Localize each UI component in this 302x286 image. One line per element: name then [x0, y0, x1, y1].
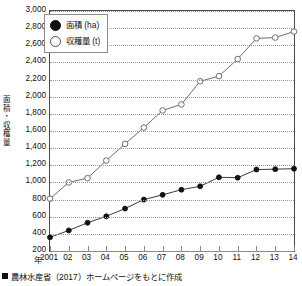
y-tick-label: 1,200 — [0, 160, 46, 168]
gridline — [50, 97, 294, 98]
x-tick-mark — [50, 246, 51, 251]
source-caption: 農林水産省（2017）ホームページをもとに作成 — [2, 272, 302, 283]
y-tick-label: 2,200 — [0, 75, 46, 83]
series-line — [50, 32, 294, 199]
x-tick-mark — [163, 246, 164, 251]
legend-label-yield: 収穫量 (t) — [66, 37, 100, 46]
open-circle-icon — [50, 36, 61, 47]
gridline — [50, 165, 294, 166]
data-point — [235, 56, 241, 62]
data-point — [141, 125, 147, 131]
bullet-square-icon — [2, 273, 8, 279]
data-point — [216, 73, 222, 79]
data-point — [160, 108, 166, 114]
filled-circle-icon — [50, 20, 61, 31]
data-point — [122, 141, 128, 147]
data-point — [254, 36, 260, 42]
data-point — [235, 175, 240, 180]
y-tick-label: 3,000 — [0, 6, 46, 14]
x-tick-mark — [200, 246, 201, 251]
y-tick-label: 1,400 — [0, 143, 46, 151]
y-tick-label: 800 — [0, 195, 46, 203]
data-point — [66, 228, 71, 233]
x-tick-mark — [69, 246, 70, 251]
data-point — [273, 167, 278, 172]
data-point — [216, 175, 221, 180]
y-tick-label: 400 — [0, 229, 46, 237]
data-point — [104, 158, 110, 164]
data-point — [160, 192, 165, 197]
y-tick-label: 1,800 — [0, 109, 46, 117]
data-point — [254, 167, 259, 172]
gridline — [50, 131, 294, 132]
gridline — [50, 200, 294, 201]
y-axis-tick-labels: 2004006008001,0001,2001,4001,6001,8002,0… — [0, 0, 46, 286]
data-point — [198, 184, 203, 189]
data-point — [48, 235, 53, 240]
x-tick-mark — [294, 246, 295, 251]
x-tick-mark — [125, 246, 126, 251]
y-tick-label: 2,400 — [0, 57, 46, 65]
x-axis-tick-labels: 200102030405060708091011121314 — [0, 253, 302, 266]
caption-text: 農林水産省（2017）ホームページをもとに作成 — [11, 272, 182, 282]
chart-legend: 面積 (ha) 収穫量 (t) — [44, 14, 108, 53]
gridline — [50, 11, 294, 12]
data-point — [272, 35, 278, 41]
gridline — [50, 80, 294, 81]
x-tick-mark — [106, 246, 107, 251]
x-tick-mark — [275, 246, 276, 251]
data-point — [179, 102, 185, 108]
data-point — [123, 206, 128, 211]
gridline — [50, 114, 294, 115]
x-tick-mark — [144, 246, 145, 251]
y-tick-label: 2,600 — [0, 40, 46, 48]
y-tick-label: 600 — [0, 212, 46, 220]
legend-item-area: 面積 (ha) — [50, 19, 100, 32]
x-tick-mark — [219, 246, 220, 251]
legend-label-area: 面積 (ha) — [66, 21, 99, 30]
gridline — [50, 62, 294, 63]
x-tick-mark — [256, 246, 257, 251]
gridline — [50, 234, 294, 235]
y-tick-label: 1,000 — [0, 177, 46, 185]
data-point — [291, 29, 297, 35]
y-tick-label: 1,600 — [0, 126, 46, 134]
data-point — [85, 175, 91, 181]
chart-figure: 面積・収穫量 2004006008001,0001,2001,4001,6001… — [0, 0, 302, 286]
data-point — [179, 187, 184, 192]
legend-item-yield: 収穫量 (t) — [50, 35, 100, 48]
gridline — [50, 217, 294, 218]
x-tick-mark — [181, 246, 182, 251]
data-point — [85, 220, 90, 225]
axis-baseline — [50, 251, 294, 252]
data-point — [292, 166, 297, 171]
gridline — [50, 182, 294, 183]
y-tick-label: 2,800 — [0, 23, 46, 31]
x-tick-mark — [88, 246, 89, 251]
gridline — [50, 148, 294, 149]
x-tick-mark — [238, 246, 239, 251]
x-tick-label: 14 — [279, 253, 302, 262]
y-tick-label: 2,000 — [0, 92, 46, 100]
